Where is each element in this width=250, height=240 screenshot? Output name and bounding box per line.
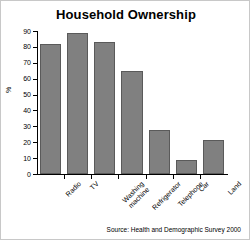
y-axis-tick-label: 90: [1, 28, 31, 35]
y-axis-tick-label: 80: [1, 43, 31, 50]
bar: [203, 140, 224, 174]
plot-area: [37, 31, 227, 174]
y-axis-tick-label: 0: [1, 171, 31, 178]
x-axis-tick: [173, 175, 174, 179]
bar: [67, 33, 88, 174]
y-axis-tick-label: 60: [1, 75, 31, 82]
y-axis-tick-label: 70: [1, 59, 31, 66]
chart-figure: Household Ownership % 010203040506070809…: [0, 0, 250, 240]
y-axis-tick-label: 10: [1, 155, 31, 162]
chart-title: Household Ownership: [1, 7, 250, 22]
y-axis-tick-label: 20: [1, 139, 31, 146]
x-axis-tick: [146, 175, 147, 179]
bar: [40, 44, 61, 174]
x-axis-tick-label: Land: [226, 180, 243, 197]
source-note: Source: Health and Demographic Survey 20…: [107, 226, 241, 233]
y-axis-tick-label: 40: [1, 107, 31, 114]
x-axis-tick-label: TV: [88, 180, 100, 192]
y-axis-tick-label: 50: [1, 91, 31, 98]
bar: [176, 160, 197, 174]
bar: [149, 130, 170, 174]
y-axis-tick-label: 30: [1, 123, 31, 130]
x-axis-tick: [118, 175, 119, 179]
x-axis-tick: [200, 175, 201, 179]
x-axis-tick-label: Radio: [64, 180, 83, 199]
x-axis-tick-label: Refrigerator: [151, 180, 183, 212]
bar: [94, 42, 115, 174]
x-axis-tick: [64, 175, 65, 179]
y-axis-tick: [33, 174, 37, 175]
x-axis-tick-label: Washing machine: [121, 180, 151, 210]
x-axis-tick: [91, 175, 92, 179]
bar: [121, 71, 142, 174]
